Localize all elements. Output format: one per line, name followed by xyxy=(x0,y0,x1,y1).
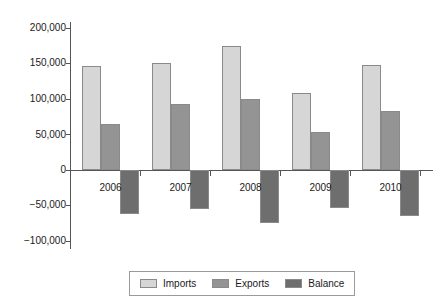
bar-balance-2010 xyxy=(400,170,419,216)
y-axis-tick-label-100000: 100,000 xyxy=(30,94,66,104)
bar-imports-2007 xyxy=(152,63,171,170)
y-axis-line xyxy=(70,22,71,249)
bar-group-2007: 2007 xyxy=(152,22,216,249)
y-axis-tick-label-50000: 50,000 xyxy=(35,130,66,140)
y-axis-tick-label-neg50000: −50,000 xyxy=(30,200,66,210)
x-axis-label-2010: 2010 xyxy=(362,182,419,193)
bar-imports-2008 xyxy=(222,46,241,170)
legend-label-balance: Balance xyxy=(308,278,344,289)
legend-label-exports: Exports xyxy=(235,278,269,289)
x-axis-label-2008: 2008 xyxy=(222,182,279,193)
y-axis-tick-label-200000: 200,000 xyxy=(30,23,66,33)
y-axis-tick-50000 xyxy=(66,134,71,135)
y-axis-tick-100000 xyxy=(66,99,71,100)
x-axis-label-2007: 2007 xyxy=(152,182,209,193)
bar-imports-2006 xyxy=(82,66,101,170)
y-axis-tick-neg50000 xyxy=(66,205,71,206)
bar-exports-2009 xyxy=(311,132,330,170)
bar-exports-2006 xyxy=(101,124,120,170)
bar-imports-2009 xyxy=(292,93,311,170)
bar-imports-2010 xyxy=(362,65,381,170)
bar-group-2008: 2008 xyxy=(222,22,286,249)
bar-balance-2008 xyxy=(260,170,279,223)
legend-swatch-imports-icon xyxy=(140,279,157,288)
x-axis-label-2009: 2009 xyxy=(292,182,349,193)
bar-chart: 200,000 150,000 100,000 50,000 0 −50,000… xyxy=(0,0,448,307)
y-axis-tick-label-neg100000: −100,000 xyxy=(24,236,66,246)
legend-swatch-balance-icon xyxy=(285,279,302,288)
bar-group-2009: 2009 xyxy=(292,22,356,249)
plot-area: 2006 2007 2008 2009 2010 xyxy=(70,22,433,249)
y-axis-tick-neg100000 xyxy=(66,241,71,242)
bar-exports-2008 xyxy=(241,99,260,170)
bar-group-2006: 2006 xyxy=(82,22,146,249)
legend-swatch-exports-icon xyxy=(212,279,229,288)
y-axis-tick-150000 xyxy=(66,63,71,64)
legend-item-exports: Exports xyxy=(212,278,269,289)
x-axis-label-2006: 2006 xyxy=(82,182,139,193)
y-axis-tick-0 xyxy=(66,170,71,171)
bar-group-2010: 2010 xyxy=(362,22,426,249)
legend-item-balance: Balance xyxy=(285,278,344,289)
bar-exports-2007 xyxy=(171,104,190,170)
legend-label-imports: Imports xyxy=(163,278,196,289)
bar-exports-2010 xyxy=(381,111,400,170)
y-axis-tick-label-150000: 150,000 xyxy=(30,58,66,68)
legend-item-imports: Imports xyxy=(140,278,196,289)
y-axis-tick-200000 xyxy=(66,28,71,29)
chart-legend: Imports Exports Balance xyxy=(129,271,355,296)
